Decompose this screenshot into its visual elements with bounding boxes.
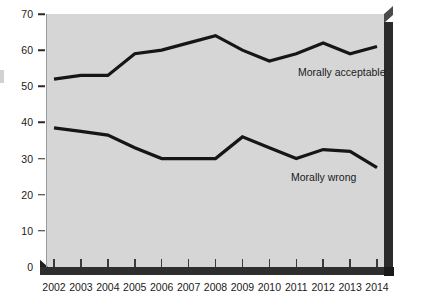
line-chart: 706050403020100 200220032004200520062007… — [0, 0, 425, 299]
y-tick-mark-10 — [38, 230, 45, 232]
y-tick-mark-50 — [38, 86, 45, 88]
series-path-morally-wrong — [54, 128, 377, 168]
y-tick-mark-20 — [38, 194, 45, 196]
series-label-morally-acceptable: Morally acceptable — [298, 66, 386, 78]
series-label-morally-wrong: Morally wrong — [291, 171, 356, 183]
y-tick-mark-30 — [38, 158, 45, 160]
y-tick-mark-60 — [38, 49, 45, 51]
y-tick-mark-40 — [38, 122, 45, 124]
y-tick-mark-70 — [38, 13, 45, 15]
series-lines — [0, 0, 425, 299]
